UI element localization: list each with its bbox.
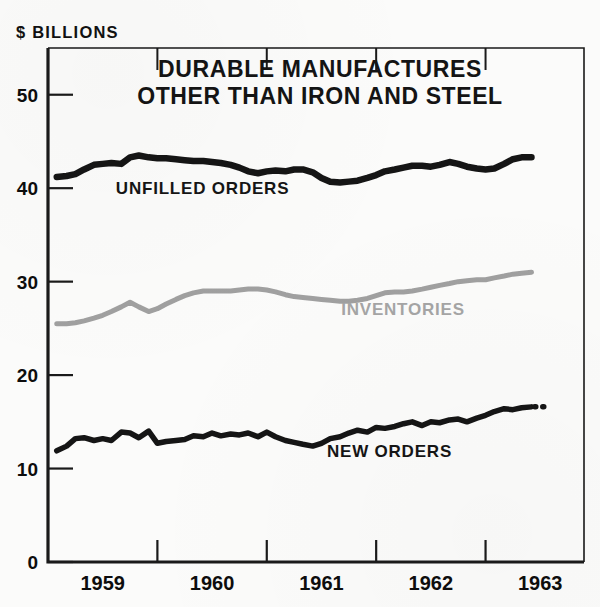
y-tick-label: 10 xyxy=(17,459,38,480)
y-tick-label: 0 xyxy=(27,552,38,573)
y-tick-label: 30 xyxy=(17,272,38,293)
y-tick-label: 50 xyxy=(17,85,38,106)
series-label-unfilled-orders: UNFILLED ORDERS xyxy=(116,179,290,198)
x-tick-label: 1960 xyxy=(190,572,235,594)
y-tick-label: 20 xyxy=(17,365,38,386)
series-label-new-orders: NEW ORDERS xyxy=(327,442,452,461)
x-tick-label: 1963 xyxy=(518,572,563,594)
x-tick-label: 1959 xyxy=(80,572,125,594)
chart-container: $ BILLIONS 01020304050 19591960196119621… xyxy=(0,0,600,607)
chart-title-line-1: DURABLE MANUFACTURES xyxy=(158,56,482,82)
x-tick-label: 1962 xyxy=(409,572,454,594)
y-tick-label: 40 xyxy=(17,178,38,199)
chart-title-line-2: OTHER THAN IRON AND STEEL xyxy=(137,83,503,109)
series-label-inventories: INVENTORIES xyxy=(341,300,465,319)
y-axis-unit-label: $ BILLIONS xyxy=(16,23,119,41)
line-chart: $ BILLIONS 01020304050 19591960196119621… xyxy=(0,0,600,607)
x-tick-label: 1961 xyxy=(299,572,344,594)
